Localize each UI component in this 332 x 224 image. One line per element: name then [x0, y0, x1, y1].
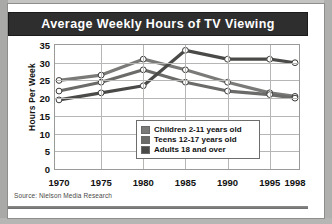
chart-title-bar: Average Weekly Hours of TV Viewing [8, 12, 308, 36]
chart-area: Hours Per Week 05101520253035 1970197519… [8, 40, 308, 190]
page-edge-left [0, 0, 8, 224]
legend-item-adults: Adults 18 and over [141, 145, 255, 154]
legend-label-teens: Teens 12-17 years old [154, 135, 237, 144]
y-tick-label: 5 [28, 146, 50, 157]
x-tick-label: 1980 [133, 177, 154, 188]
chart-screenshot: Average Weekly Hours of TV Viewing Hours… [0, 0, 332, 224]
chart-legend: Children 2-11 years old Teens 12-17 year… [136, 120, 260, 159]
x-tick-label: 1970 [48, 177, 69, 188]
y-tick-label: 35 [28, 40, 50, 51]
y-tick-label: 0 [28, 164, 50, 175]
y-tick-label: 30 [28, 57, 50, 68]
legend-label-children: Children 2-11 years old [154, 125, 242, 134]
y-axis-ticks: 05101520253035 [26, 40, 50, 170]
x-tick-label: 1995 [259, 177, 280, 188]
legend-item-teens: Teens 12-17 years old [141, 135, 255, 144]
y-tick-label: 25 [28, 75, 50, 86]
legend-swatch-children [141, 126, 150, 134]
y-tick-label: 15 [28, 110, 50, 121]
page-edge-bottom [0, 218, 332, 224]
legend-swatch-teens [141, 136, 150, 144]
page-edge-right [324, 0, 332, 224]
page-title: Average Weekly Hours of TV Viewing [41, 17, 275, 31]
y-tick-label: 20 [28, 93, 50, 104]
x-tick-label: 1985 [175, 177, 196, 188]
y-tick-label: 10 [28, 128, 50, 139]
x-tick-label: 1975 [91, 177, 112, 188]
source-note: Source: Nielson Media Research [14, 192, 112, 199]
x-tick-label: 1990 [217, 177, 238, 188]
bottom-rule [8, 206, 308, 209]
legend-label-adults: Adults 18 and over [154, 145, 226, 154]
legend-item-children: Children 2-11 years old [141, 125, 255, 134]
legend-swatch-adults [141, 146, 150, 154]
x-tick-label: 1998 [284, 177, 305, 188]
